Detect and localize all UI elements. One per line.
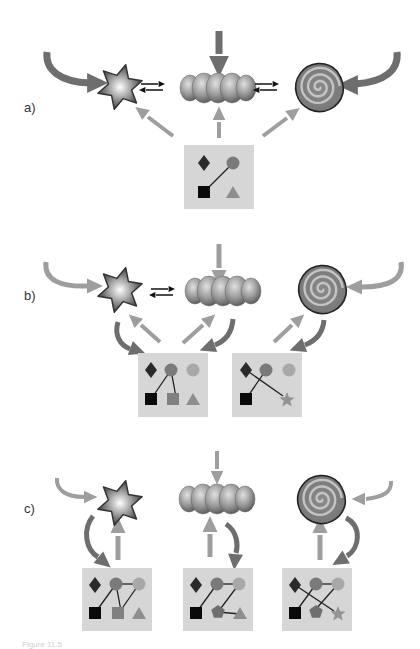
arrow-straight xyxy=(129,314,160,342)
panel-label-a: a) xyxy=(24,100,36,115)
arrow-curved xyxy=(337,52,397,95)
panel-label-b: b) xyxy=(24,288,36,303)
network-node-circle xyxy=(187,364,200,377)
arrow-curved xyxy=(47,52,108,93)
network-node-circle xyxy=(283,364,296,377)
network-box xyxy=(138,353,208,417)
molecule-star xyxy=(98,65,142,110)
molecule-spiral xyxy=(296,64,344,112)
equilibrium-arrow xyxy=(139,81,165,93)
molecule-star xyxy=(98,268,142,313)
network-node-square xyxy=(289,607,301,619)
arrow-curved xyxy=(346,262,401,295)
network-node-circle xyxy=(165,364,178,377)
arrow-straight xyxy=(211,451,224,484)
molecule-spiral xyxy=(299,266,347,314)
arrow-curved xyxy=(200,319,233,352)
arrow-curved xyxy=(46,262,103,294)
network-box xyxy=(82,568,152,631)
arrow-straight xyxy=(213,107,226,138)
arrow-curved xyxy=(226,524,243,570)
network-node-square xyxy=(240,393,252,405)
network-box-layer xyxy=(82,145,352,631)
molecule-layer xyxy=(98,64,347,526)
network-node-square xyxy=(112,607,124,619)
molecule-beads xyxy=(179,484,255,514)
network-node-circle xyxy=(310,578,323,591)
network-node-square xyxy=(145,393,157,405)
arrow-straight xyxy=(135,107,173,136)
molecule-star xyxy=(98,481,142,526)
figure-caption: Figure 11.5 xyxy=(22,640,62,649)
equilibrium-arrow xyxy=(253,81,279,93)
arrow-straight xyxy=(203,516,218,557)
network-node-square xyxy=(167,393,179,405)
molecule-spiral xyxy=(298,476,346,524)
panel-label-c: c) xyxy=(24,501,35,516)
network-node-circle xyxy=(110,578,123,591)
arrow-curved xyxy=(87,516,111,567)
network-node-circle xyxy=(233,578,246,591)
network-node-square xyxy=(190,607,202,619)
arrow-straight xyxy=(111,517,126,560)
network-box xyxy=(183,568,253,631)
diagram-canvas xyxy=(0,0,420,649)
arrow-straight xyxy=(274,314,304,342)
network-box xyxy=(282,568,352,631)
network-node-circle xyxy=(133,578,146,591)
network-node-circle xyxy=(260,364,273,377)
network-box xyxy=(232,353,302,417)
arrow-straight xyxy=(209,31,229,77)
molecule-beads xyxy=(185,276,261,306)
network-node-square xyxy=(198,186,210,198)
network-node-square xyxy=(89,607,101,619)
network-node-circle xyxy=(211,578,224,591)
network-node-circle xyxy=(332,578,345,591)
arrow-curved xyxy=(57,478,97,503)
network-node-circle xyxy=(227,157,240,170)
arrow-curved xyxy=(352,481,391,505)
arrow-straight xyxy=(263,108,300,136)
arrow-curved xyxy=(290,320,324,352)
arrow-curved xyxy=(332,518,357,565)
equilibrium-arrow xyxy=(149,286,175,298)
arrow-straight xyxy=(183,314,215,343)
molecule-beads xyxy=(180,73,256,103)
network-box xyxy=(184,145,254,209)
